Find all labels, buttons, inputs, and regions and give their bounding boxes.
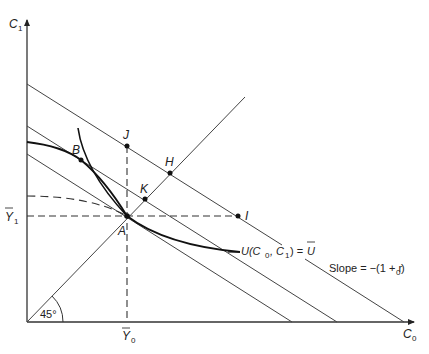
svg-text:0: 0 — [412, 334, 417, 343]
y-axis-label: C 1 — [9, 17, 23, 33]
slope-label: Slope = −(1 + r 0 ) — [329, 262, 405, 277]
label-B: B — [72, 143, 80, 157]
label-A: A — [117, 224, 126, 238]
y0-bar-label: Y 0 — [122, 328, 136, 345]
budget-line-outer — [27, 84, 282, 245]
svg-text:): ) — [401, 262, 405, 274]
svg-text:Slope = −(1 + r: Slope = −(1 + r — [329, 262, 402, 274]
x-axis-label: C 0 — [403, 327, 417, 343]
svg-text:C: C — [403, 327, 412, 341]
utility-curve-label: U(C 0 , C 1 ) = U — [241, 242, 315, 260]
y1-bar-label: Y 1 — [5, 208, 19, 226]
point-A — [124, 213, 130, 219]
45-degree-line — [27, 97, 245, 322]
svg-text:, C: , C — [270, 245, 284, 257]
steep-curve — [78, 128, 127, 216]
svg-text:0: 0 — [131, 336, 136, 345]
angle-label: 45° — [40, 308, 57, 320]
point-I — [236, 214, 241, 219]
svg-text:) =: ) = — [290, 245, 303, 257]
svg-text:Y: Y — [5, 210, 14, 224]
svg-text:1: 1 — [14, 217, 19, 226]
svg-text:Y: Y — [122, 329, 131, 343]
budget-line-tangent — [27, 154, 292, 322]
point-B — [79, 158, 84, 163]
svg-text:C: C — [9, 17, 18, 31]
intertemporal-consumption-diagram: A B J H K I C 1 C 0 Y 1 Y 0 45° U(C 0 , … — [0, 0, 429, 354]
point-H — [168, 171, 173, 176]
point-J — [125, 144, 130, 149]
label-J: J — [122, 128, 130, 142]
svg-text:U(C: U(C — [241, 245, 261, 257]
svg-text:1: 1 — [18, 24, 23, 33]
label-K: K — [140, 182, 149, 196]
svg-text:U: U — [307, 245, 315, 257]
label-I: I — [245, 209, 249, 223]
label-H: H — [165, 155, 174, 169]
point-K — [143, 197, 148, 202]
